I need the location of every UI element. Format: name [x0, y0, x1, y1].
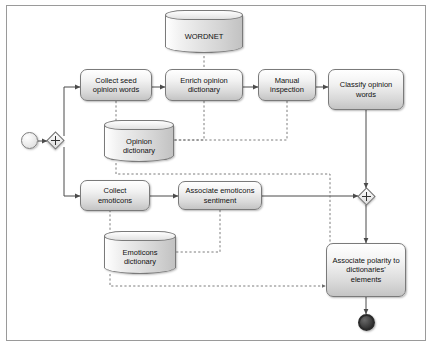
gateway-plus-icon-vertical: [55, 136, 56, 145]
task-collect-seed-opinion-words[interactable]: Collect seed opinion words: [80, 69, 152, 101]
task-collect-emoticons[interactable]: Collect emoticons: [80, 180, 150, 211]
task-classify-opinion-words[interactable]: Classify opinion words: [328, 69, 404, 110]
end-event[interactable]: [358, 314, 375, 331]
opinion-dictionary-label: Opinion dictionary: [104, 137, 174, 155]
start-event[interactable]: [21, 132, 38, 149]
task-associate-polarity-to-dictionaries-elements[interactable]: Associate polarity to dictionaries' elem…: [326, 243, 406, 297]
datastore-wordnet[interactable]: WORDNET: [165, 10, 243, 56]
parallel-gateway-split[interactable]: [47, 132, 64, 149]
parallel-gateway-join[interactable]: [358, 188, 375, 205]
task-manual-inspection[interactable]: Manual inspection: [258, 69, 316, 101]
wordnet-label: WORDNET: [165, 32, 243, 41]
gateway-join-plus-icon-vertical: [366, 192, 367, 201]
datastore-opinion-dictionary[interactable]: Opinion dictionary: [104, 120, 174, 164]
task-associate-emoticons-sentiment[interactable]: Associate emoticons sentiment: [178, 181, 262, 210]
opinion-dictionary-cylinder-top: [104, 120, 174, 130]
emoticons-dictionary-cylinder-top: [104, 231, 176, 241]
task-enrich-opinion-dictionary[interactable]: Enrich opinion dictionary: [165, 69, 243, 101]
wordnet-cylinder-top: [165, 10, 243, 20]
emoticons-dictionary-label: Emoticons dictionary: [104, 248, 176, 266]
diagram-canvas: WORDNET Collect seed opinion words Enric…: [0, 0, 433, 347]
datastore-emoticons-dictionary[interactable]: Emoticons dictionary: [104, 231, 176, 276]
